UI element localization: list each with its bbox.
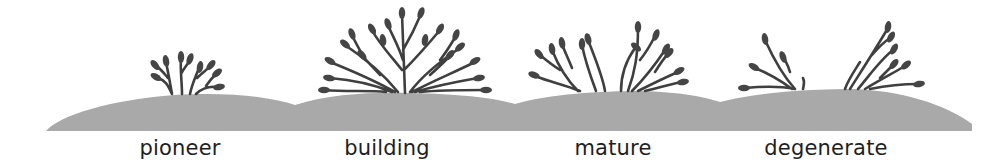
- label-degenerate: degenerate: [764, 136, 887, 160]
- label-pioneer: pioneer: [139, 136, 220, 160]
- plant-mature: [527, 21, 689, 91]
- label-mature: mature: [574, 136, 651, 160]
- plant-degenerate: [738, 21, 925, 92]
- plant-building: [318, 6, 492, 93]
- ground-mound: [46, 89, 972, 131]
- label-building: building: [344, 136, 430, 160]
- plant-pioneer: [149, 51, 226, 94]
